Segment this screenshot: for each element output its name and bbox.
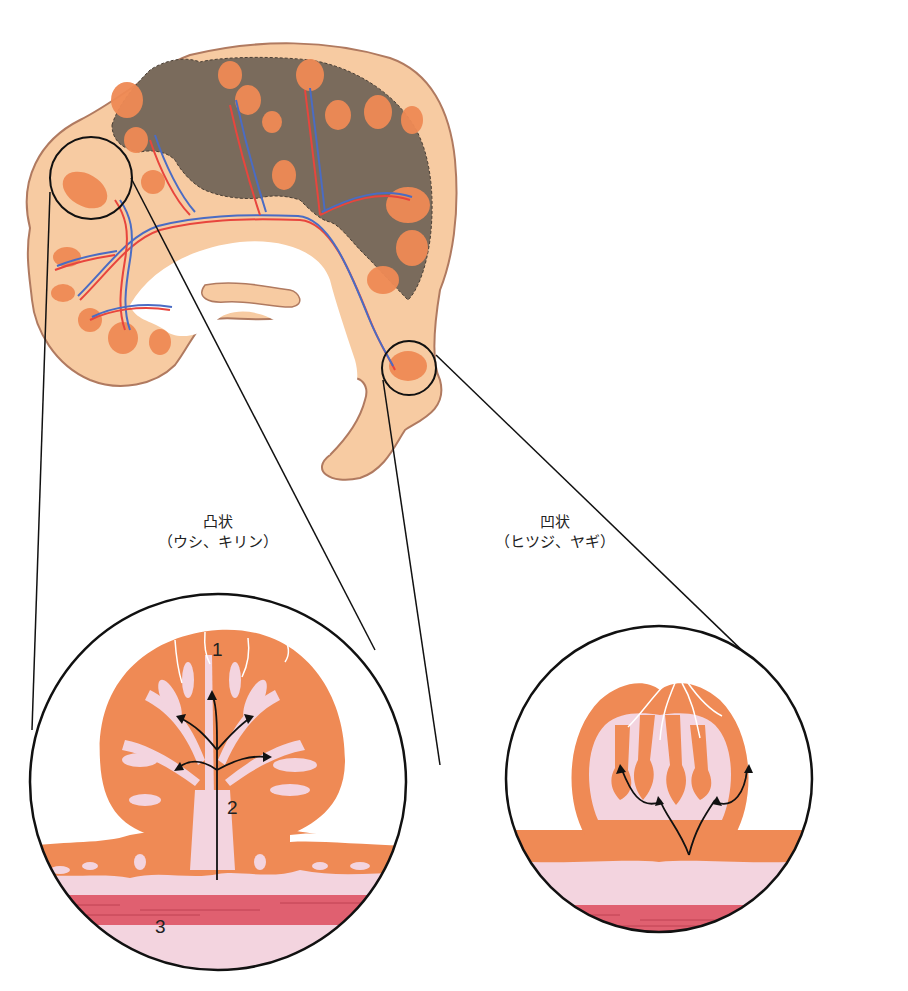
marker-3: 3 bbox=[155, 916, 166, 937]
caption-convex-title: 凸状 bbox=[118, 512, 318, 532]
caption-concave: 凹状 （ヒツジ、ヤギ） bbox=[455, 512, 655, 552]
caption-concave-subtitle: （ヒツジ、ヤギ） bbox=[455, 532, 655, 552]
concave-placentome-detail bbox=[500, 626, 820, 960]
marker-1: 1 bbox=[212, 639, 223, 660]
placenta-diagram: 1 2 3 bbox=[0, 0, 908, 991]
convex-placentome-detail: 1 2 3 bbox=[20, 594, 420, 975]
marker-2: 2 bbox=[227, 797, 238, 818]
fetus-overview bbox=[27, 43, 457, 479]
caption-convex: 凸状 （ウシ、キリン） bbox=[118, 512, 318, 552]
caption-concave-title: 凹状 bbox=[455, 512, 655, 532]
caption-convex-subtitle: （ウシ、キリン） bbox=[118, 532, 318, 552]
